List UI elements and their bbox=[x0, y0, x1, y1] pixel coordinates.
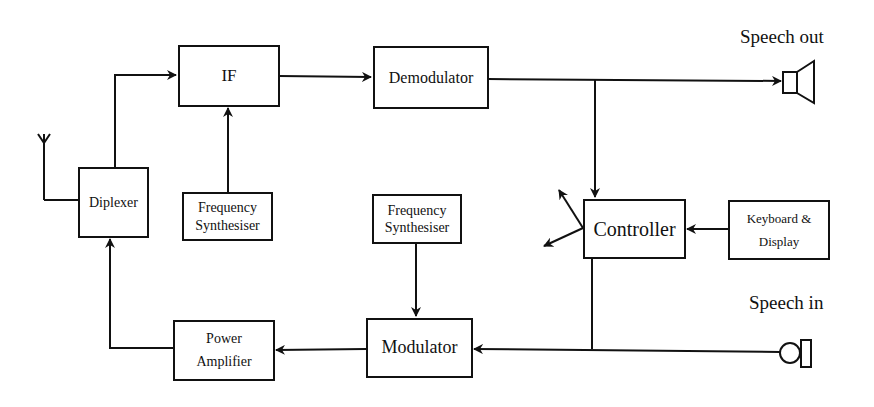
diplexer-label: Diplexer bbox=[89, 195, 138, 210]
freq-synth-rx-line2: Synthesiser bbox=[195, 217, 260, 235]
frequency-synthesiser-tx-block: Frequency Synthesiser bbox=[372, 194, 462, 244]
freq-synth-tx-line1: Frequency bbox=[387, 202, 446, 220]
frequency-synthesiser-rx-block: Frequency Synthesiser bbox=[182, 192, 273, 241]
modulator-block: Modulator bbox=[366, 318, 473, 378]
antenna-icon bbox=[38, 134, 78, 200]
keyboard-display-block: Keyboard & Display bbox=[728, 200, 830, 260]
keyboard-line1: Keyboard & bbox=[747, 207, 812, 230]
speech-in-label: Speech in bbox=[749, 292, 823, 314]
freq-synth-tx-line2: Synthesiser bbox=[385, 219, 450, 237]
power-amp-line1: Power bbox=[206, 328, 242, 350]
power-amplifier-block: Power Amplifier bbox=[173, 320, 275, 381]
controller-block: Controller bbox=[583, 199, 686, 259]
speaker-icon bbox=[783, 61, 814, 103]
demodulator-label: Demodulator bbox=[389, 69, 473, 87]
if-label: IF bbox=[221, 67, 236, 86]
controller-label: Controller bbox=[593, 218, 675, 240]
speech-out-label: Speech out bbox=[740, 26, 824, 48]
diplexer-block: Diplexer bbox=[78, 167, 149, 238]
keyboard-line2: Display bbox=[759, 230, 799, 253]
if-block: IF bbox=[178, 45, 280, 107]
freq-synth-rx-line1: Frequency bbox=[198, 199, 257, 217]
demodulator-block: Demodulator bbox=[373, 46, 489, 109]
microphone-icon bbox=[780, 340, 811, 367]
modulator-label: Modulator bbox=[382, 338, 458, 358]
power-amp-line2: Amplifier bbox=[196, 351, 251, 373]
